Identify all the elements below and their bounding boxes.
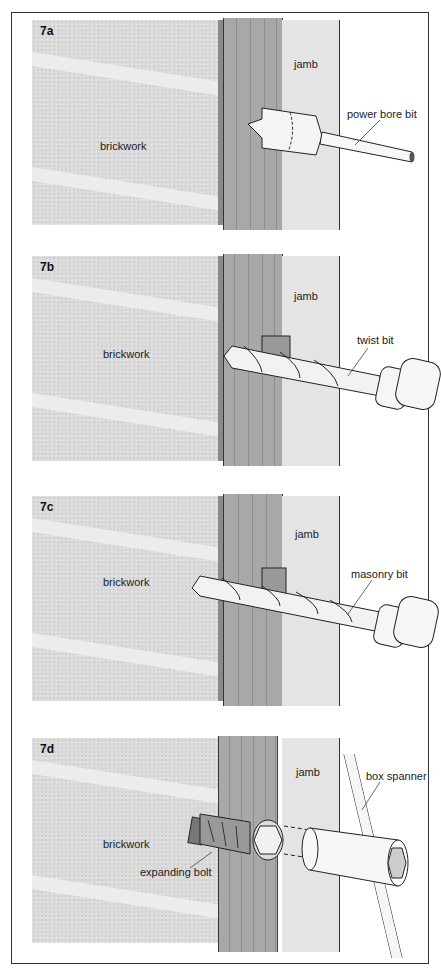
panel-7a: 7a brickwork jamb power bore bit (0, 12, 441, 240)
panel-7b: 7b brickwork jamb twist bit (0, 248, 441, 476)
masonry-bit-icon (0, 488, 441, 716)
power-bore-bit-icon (0, 12, 441, 240)
panel-7c: 7c brickwork jamb masonry bit (0, 488, 441, 716)
panel-7d: 7d brickwork jamb box spanner expanding … (0, 730, 441, 958)
twist-bit-icon (0, 248, 441, 476)
expanding-bolt-and-spanner-icon (0, 730, 441, 958)
